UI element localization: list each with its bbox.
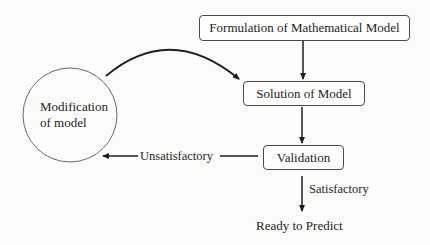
unsatisfactory-label: Unsatisfactory [140,150,213,163]
solution-box: Solution of Model [243,81,365,106]
solution-label: Solution of Model [256,86,351,102]
ready-to-predict-label: Ready to Predict [256,219,343,232]
satisfactory-label: Satisfactory [309,183,369,196]
modification-text: Modification of model [40,99,108,131]
formulation-box: Formulation of Mathematical Model [199,15,410,41]
validation-label: Validation [277,150,330,166]
modification-label-line1: Modification [40,99,108,115]
validation-box: Validation [263,145,344,170]
formulation-label: Formulation of Mathematical Model [209,20,399,36]
arrow-modification-to-solution [106,50,239,79]
modification-label-line2: of model [40,115,108,131]
